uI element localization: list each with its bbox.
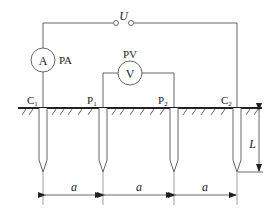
electrode-p2 (170, 108, 178, 172)
spacing-label-2: a (136, 180, 142, 194)
electrode-label-p2: P2 (158, 94, 168, 108)
resistivity-diagram: U A PA V PV C1 P1 P2 C2 (0, 0, 275, 220)
ammeter-label: PA (59, 54, 72, 66)
voltmeter-wire-left (103, 73, 118, 108)
ammeter-symbol: A (39, 54, 48, 68)
spacing-label-3: a (202, 180, 208, 194)
electrode-label-c2: C2 (221, 94, 232, 108)
terminal-left-icon (114, 21, 119, 26)
electrode-label-c1: C1 (27, 94, 38, 108)
electrode-p1 (99, 108, 107, 172)
spacing-label-1: a (71, 180, 77, 194)
electrode-labels: C1 P1 P2 C2 (27, 94, 232, 108)
depth-label: L (248, 137, 256, 151)
voltmeter-label: PV (123, 48, 137, 60)
voltmeter-symbol: V (126, 67, 135, 81)
electrodes (39, 108, 241, 172)
electrode-c2 (233, 108, 241, 172)
electrode-label-p1: P1 (87, 94, 97, 108)
ground-hatching (22, 109, 258, 115)
electrode-c1 (39, 108, 47, 172)
terminal-right-icon (129, 21, 134, 26)
source-label: U (119, 9, 129, 23)
